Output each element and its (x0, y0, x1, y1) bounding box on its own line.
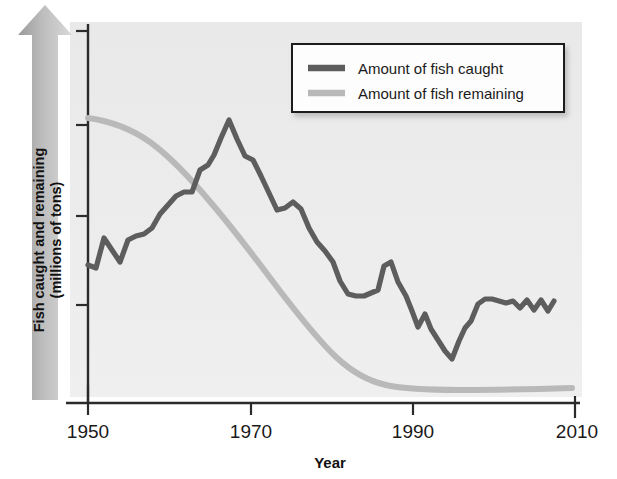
fish-catch-line-chart: 1950 1970 1990 2010 Year Fish caught and… (0, 0, 617, 479)
y-axis-title-line2: (millions of tons) (48, 181, 64, 298)
y-axis-title-line1: Fish caught and remaining (31, 148, 47, 333)
x-tick-label-1990: 1990 (392, 421, 434, 442)
x-tick-label-2010: 2010 (556, 421, 598, 442)
chart-legend: Amount of fish caught Amount of fish rem… (292, 44, 564, 112)
x-tick-label-1970: 1970 (230, 421, 272, 442)
x-tick-label-1950: 1950 (67, 421, 109, 442)
legend-label-fish-remaining: Amount of fish remaining (358, 85, 524, 102)
x-axis-title: Year (314, 454, 346, 471)
chart-figure: 1950 1970 1990 2010 Year Fish caught and… (0, 0, 617, 479)
legend-label-fish-caught: Amount of fish caught (358, 60, 504, 77)
